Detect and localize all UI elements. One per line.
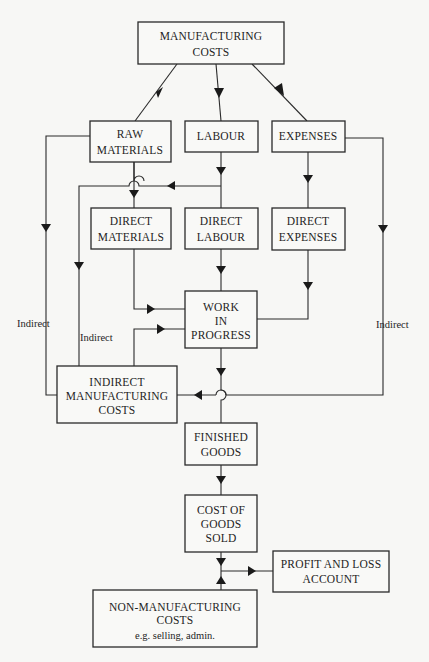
edge-label-expenses-indirect: Indirect bbox=[376, 319, 409, 330]
node-label: ACCOUNT bbox=[303, 573, 360, 585]
node-direct-materials: DIRECT MATERIALS bbox=[91, 208, 171, 249]
arrow-head-icon bbox=[274, 83, 284, 96]
node-label: GOODS bbox=[201, 446, 242, 458]
edge-direct-expenses-to-wip bbox=[257, 250, 308, 319]
node-label: EXPENSES bbox=[279, 231, 337, 243]
edge-direct-materials-to-wip bbox=[134, 249, 185, 309]
arrow-head-icon bbox=[41, 224, 51, 232]
arrow-head-icon bbox=[129, 190, 139, 198]
node-label: PROFIT AND LOSS bbox=[281, 558, 382, 570]
node-expenses: EXPENSES bbox=[272, 121, 345, 152]
node-label: INDIRECT bbox=[89, 376, 144, 388]
edge-mfg-to-raw bbox=[135, 64, 177, 121]
node-labour: LABOUR bbox=[185, 121, 258, 152]
node-label: MANUFACTURING bbox=[66, 390, 169, 402]
node-label: IN bbox=[215, 315, 228, 327]
cost-flow-diagram: MANUFACTURING COSTS RAW MATERIALS LABOUR… bbox=[0, 0, 429, 662]
node-label: MATERIALS bbox=[98, 231, 164, 243]
node-label: MANUFACTURING bbox=[160, 30, 263, 42]
arrow-head-icon bbox=[216, 167, 226, 175]
node-cost-of-goods-sold: COST OF GOODS SOLD bbox=[185, 495, 257, 552]
arrow-head-icon bbox=[214, 88, 224, 98]
arrow-head-icon bbox=[248, 566, 256, 576]
node-finished-goods: FINISHED GOODS bbox=[185, 423, 257, 465]
arrow-head-icon bbox=[216, 476, 226, 484]
node-label: SOLD bbox=[206, 532, 237, 544]
arrow-head-icon bbox=[216, 558, 226, 566]
node-label: DIRECT bbox=[287, 215, 330, 227]
node-label: NON-MANUFACTURING bbox=[109, 601, 241, 613]
arrow-head-icon bbox=[216, 266, 226, 274]
arrow-head-icon bbox=[303, 282, 313, 290]
node-label: LABOUR bbox=[197, 231, 246, 243]
arrow-head-icon bbox=[216, 368, 226, 376]
arrow-head-icon bbox=[157, 324, 165, 334]
node-direct-labour: DIRECT LABOUR bbox=[185, 208, 258, 249]
node-label: PROGRESS bbox=[191, 329, 251, 341]
edge-raw-indirect bbox=[46, 136, 90, 395]
node-label: MATERIALS bbox=[97, 144, 163, 156]
arrow-head-icon bbox=[74, 262, 84, 270]
node-non-manufacturing-costs: NON-MANUFACTURING COSTS e.g. selling, ad… bbox=[93, 590, 257, 647]
node-label: LABOUR bbox=[197, 130, 246, 142]
node-label: DIRECT bbox=[110, 215, 153, 227]
arrow-head-icon bbox=[147, 304, 155, 314]
arrow-head-icon bbox=[216, 576, 226, 584]
arrow-head-icon bbox=[303, 175, 313, 183]
edge-raw-to-direct-materials bbox=[134, 162, 144, 181]
arrow-head-icon bbox=[194, 390, 202, 400]
edge-imc-to-wip bbox=[134, 329, 185, 366]
node-note: e.g. selling, admin. bbox=[135, 630, 215, 641]
node-raw-materials: RAW MATERIALS bbox=[90, 121, 171, 162]
node-label: RAW bbox=[117, 128, 144, 140]
node-label: WORK bbox=[203, 301, 239, 313]
node-label: COSTS bbox=[193, 46, 230, 58]
node-profit-and-loss-account: PROFIT AND LOSS ACCOUNT bbox=[273, 551, 389, 592]
node-label: COSTS bbox=[99, 404, 136, 416]
edge-label-labour-indirect: Indirect bbox=[80, 332, 113, 343]
node-manufacturing-costs: MANUFACTURING COSTS bbox=[138, 22, 284, 64]
node-label: EXPENSES bbox=[279, 130, 337, 142]
arrow-head-icon bbox=[167, 181, 175, 190]
node-indirect-manufacturing-costs: INDIRECT MANUFACTURING COSTS bbox=[57, 366, 177, 423]
edge-wip-to-finished-goods bbox=[221, 348, 226, 423]
edge-mfg-to-expenses bbox=[252, 64, 307, 121]
node-label: COST OF bbox=[197, 504, 245, 516]
node-label: COSTS bbox=[157, 614, 194, 626]
node-work-in-progress: WORK IN PROGRESS bbox=[185, 291, 257, 348]
node-label: GOODS bbox=[201, 518, 242, 530]
node-label: FINISHED bbox=[194, 431, 248, 443]
arrow-head-icon bbox=[378, 225, 388, 233]
edge-label-raw-indirect: Indirect bbox=[17, 318, 50, 329]
node-label: DIRECT bbox=[200, 215, 243, 227]
node-direct-expenses: DIRECT EXPENSES bbox=[272, 208, 345, 250]
